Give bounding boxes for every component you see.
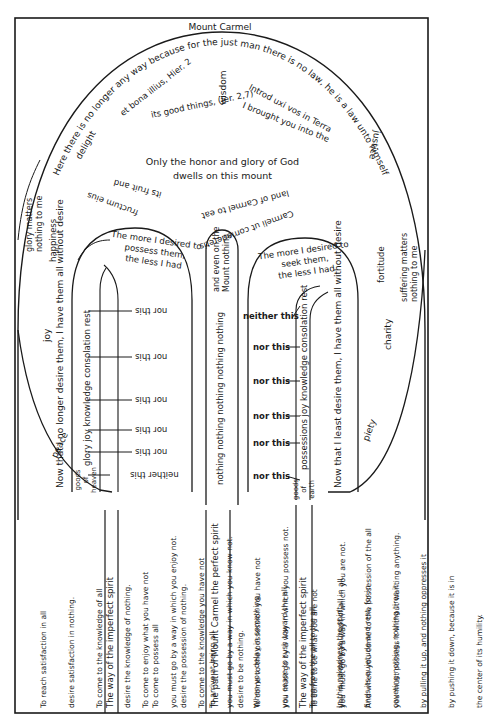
left-marker: nor this <box>135 425 167 435</box>
glory-note-line: nothing to me <box>35 196 45 252</box>
right-marker: nor this <box>253 438 290 448</box>
left-goods-list: glory joy knowledge consolation rest <box>82 310 92 466</box>
column-heading-perfect: The path of Mount Carmel the perfect spi… <box>210 523 220 708</box>
glory-note: glory matters nothing to me <box>25 196 45 252</box>
bottom-column-imperfect-right: In this nakedness the spirit finds its q… <box>316 554 489 708</box>
left-side-text: Now that I no longer desire them, I have… <box>55 199 65 488</box>
column-heading-imperfect-left: The way of the imperfect spirit <box>105 577 115 708</box>
right-side-text: Now that I least desire them, I have the… <box>333 220 343 488</box>
center-line: Only the honor and glory of God <box>130 155 315 169</box>
goods-label-line: of <box>82 467 90 493</box>
center-nothing-text: nothing nothing nothing nothing nothing <box>215 312 225 485</box>
center-top-text: and even on the Mount nothing <box>212 227 232 292</box>
right-marker: nor this <box>253 411 290 421</box>
left-marker: nor this <box>135 306 167 316</box>
column-line: the center of its humility. <box>475 554 484 708</box>
column-line: To come to the knowledge you have not <box>197 526 206 708</box>
column-line: you cease to rush toward the all. <box>280 528 289 708</box>
suffering-note-line: suffering matters <box>400 233 410 302</box>
virtue-joy: joy <box>42 329 52 342</box>
center-top-line: and even on the <box>212 227 222 292</box>
left-marker: nor this <box>135 447 167 457</box>
suffering-note-line: nothing to me <box>410 233 420 302</box>
goods-label-line: goods <box>74 467 82 493</box>
suffering-note: suffering matters nothing to me <box>400 233 420 302</box>
goods-label-line: goods <box>292 479 300 500</box>
column-line: To come to enjoy what you have not <box>141 526 150 708</box>
diagram-title: Mount Carmel <box>0 22 440 32</box>
column-line: In this nakedness the spirit <box>335 554 344 708</box>
maxim-line: desire satisfaction in nothing. <box>67 584 76 708</box>
center-line: dwells on this mount <box>130 169 315 183</box>
column-line: finds its quietude and rest, for in <box>363 554 372 708</box>
glory-note-line: glory matters <box>25 196 35 252</box>
column-line: you must go by a way in which you enjoy … <box>169 526 178 708</box>
column-line: When you delay in something <box>252 528 261 708</box>
center-top-line: Mount nothing <box>222 227 232 292</box>
right-marker-neither: neither this <box>243 311 299 321</box>
column-line: by pulling it up, and nothing oppresses … <box>419 554 428 708</box>
maxim-line: To reach satisfaction in all <box>39 584 48 708</box>
column-heading-imperfect-right: The way of the imperfect spirit <box>298 577 308 708</box>
right-marker: nor this <box>253 342 290 352</box>
maxim-line: To come to the knowledge of all <box>95 584 104 708</box>
goods-label-line: of <box>300 479 308 500</box>
goods-of-heaven-label: goods of heaven <box>74 467 98 493</box>
right-goods-list: possessions joy knowledge consolation re… <box>299 285 309 470</box>
right-marker: nor this <box>253 376 290 386</box>
goods-label-line: heaven <box>90 467 98 493</box>
column-line: by pushing it down, because it is in <box>447 554 456 708</box>
virtue-fortitude: fortitude <box>376 246 386 283</box>
left-marker: nor this <box>135 395 167 405</box>
left-marker: nor this <box>135 352 167 362</box>
center-text: Only the honor and glory of God dwells o… <box>130 155 315 183</box>
virtue-charity: charity <box>383 319 393 350</box>
column-line: coveting nothing, nothing tires it <box>391 554 400 708</box>
goods-label-line: earth <box>308 479 316 500</box>
goods-of-earth-label: goods of earth <box>292 479 316 500</box>
right-marker: nor this <box>253 471 290 481</box>
left-marker-neither: neither this <box>130 470 179 480</box>
